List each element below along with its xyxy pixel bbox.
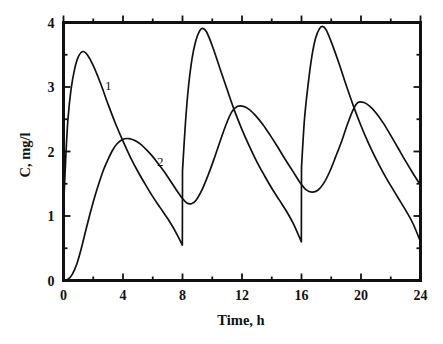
series-curve-1 [64, 26, 421, 245]
axes-frame [64, 23, 421, 281]
y-tick-label: 4 [48, 16, 55, 31]
x-tick-label: 4 [120, 288, 127, 303]
x-tick-label: 24 [414, 288, 428, 303]
y-tick-label: 0 [48, 274, 55, 289]
y-tick-label: 3 [48, 80, 55, 95]
x-tick-label: 20 [354, 288, 368, 303]
y-tick-label: 1 [48, 209, 55, 224]
series-annotation-2: 2 [157, 154, 164, 169]
plot-frame [64, 23, 421, 281]
x-axis-title: Time, h [217, 312, 264, 328]
tick-labels: 0481216202401234 [48, 16, 428, 303]
y-tick-label: 2 [48, 145, 55, 160]
chart-figure: 0481216202401234 12 Time, h C, mg/l [0, 0, 443, 344]
x-tick-label: 8 [179, 288, 186, 303]
tick-marks [64, 16, 421, 281]
x-tick-label: 0 [60, 288, 67, 303]
data-curves [64, 26, 421, 280]
x-tick-label: 16 [295, 288, 309, 303]
x-tick-label: 12 [235, 288, 249, 303]
chart-canvas: 0481216202401234 12 Time, h C, mg/l [0, 0, 443, 344]
y-axis-title: C, mg/l [17, 132, 33, 177]
series-annotations: 12 [105, 78, 164, 168]
series-annotation-1: 1 [105, 78, 112, 93]
